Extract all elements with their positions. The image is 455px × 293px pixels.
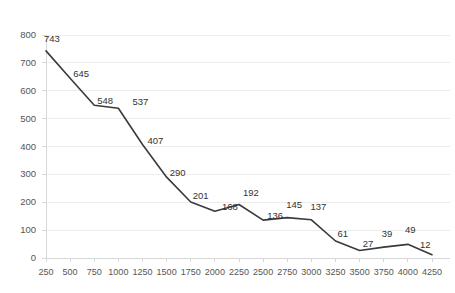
chart-plot-area [0, 0, 455, 293]
x-axis-tick-label: 4250 [417, 267, 447, 277]
data-point-label: 645 [73, 69, 89, 79]
y-axis-tick-label: 400 [6, 142, 36, 152]
data-point-label: 136 [267, 211, 283, 221]
series-line [46, 51, 432, 255]
data-point-label: 168 [222, 202, 238, 212]
y-axis-tick-label: 100 [6, 225, 36, 235]
y-axis-tick-label: 300 [6, 169, 36, 179]
data-point-label: 743 [44, 34, 60, 44]
data-point-label: 548 [97, 96, 113, 106]
data-point-label: 192 [243, 188, 259, 198]
data-point-label: 12 [420, 240, 431, 250]
data-point-label: 201 [193, 191, 209, 201]
data-point-label: 39 [382, 229, 393, 239]
y-axis-tick-label: 500 [6, 114, 36, 124]
y-axis-tick-label: 700 [6, 58, 36, 68]
data-point-label: 137 [310, 202, 326, 212]
data-point-label: 61 [338, 229, 349, 239]
data-point-label: 49 [405, 225, 416, 235]
y-axis-tick-label: 800 [6, 30, 36, 40]
x-axis-ticks [46, 258, 432, 262]
data-point-label: 145 [286, 200, 302, 210]
data-point-label: 290 [170, 168, 186, 178]
gridlines [46, 35, 450, 258]
data-point-label: 27 [363, 239, 374, 249]
data-series-line [46, 51, 432, 255]
data-point-label: 407 [148, 136, 164, 146]
y-axis-ticks [42, 35, 46, 258]
y-axis-tick-label: 600 [6, 86, 36, 96]
line-chart: 0100200300400500600700800 25050075010001… [0, 0, 455, 293]
data-point-label: 537 [132, 97, 148, 107]
y-axis-tick-label: 0 [6, 253, 36, 263]
y-axis-tick-label: 200 [6, 197, 36, 207]
